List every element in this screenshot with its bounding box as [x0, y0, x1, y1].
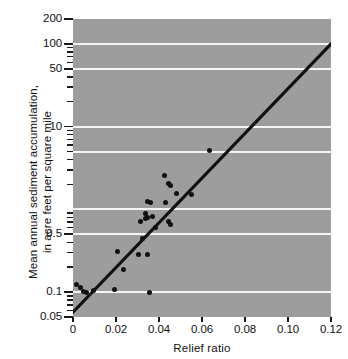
- x-axis-tick: [158, 317, 160, 322]
- x-axis-tick-label: 0.10: [277, 324, 299, 336]
- y-axis-tick-major: [64, 43, 73, 45]
- y-axis-tick-label: 50: [49, 63, 62, 75]
- y-axis-tick-major: [64, 18, 73, 20]
- data-point: [136, 252, 141, 257]
- data-point: [168, 222, 173, 227]
- x-axis-tick: [244, 317, 246, 322]
- x-axis-tick: [72, 317, 74, 322]
- y-axis-tick-major: [64, 233, 73, 235]
- x-axis-title: Relief ratio: [173, 342, 230, 354]
- y-axis-tick-label: 0.1: [46, 286, 62, 298]
- y-axis-tick-label: 200: [43, 13, 62, 25]
- x-axis-tick-label: 0.02: [105, 324, 127, 336]
- x-axis-tick: [287, 317, 289, 322]
- data-point: [162, 173, 167, 178]
- x-axis-tick-label: 0.08: [234, 324, 256, 336]
- data-point: [140, 236, 145, 241]
- y-axis-tick-major: [64, 291, 73, 293]
- x-axis-tick: [115, 317, 117, 322]
- y-axis-tick-label: 0.5: [46, 229, 62, 241]
- x-axis-tick-label: 0: [70, 324, 76, 336]
- x-axis-tick: [330, 317, 332, 322]
- x-axis-tick: [201, 317, 203, 322]
- data-point: [115, 249, 120, 254]
- y-axis: 20010050100.50.10.05: [0, 0, 73, 359]
- data-point: [145, 252, 150, 257]
- x-axis-tick-label: 0.12: [320, 324, 342, 336]
- y-axis-tick-label: 100: [43, 38, 62, 50]
- y-axis-tick-label: 10: [49, 121, 62, 133]
- trend-line: [73, 19, 331, 317]
- y-axis-tick-major: [64, 126, 73, 128]
- x-axis-tick-label: 0.04: [148, 324, 170, 336]
- x-axis-tick-label: 0.06: [191, 324, 213, 336]
- plot-area: [73, 19, 331, 317]
- y-axis-tick-major: [64, 68, 73, 70]
- scatter-chart-figure: Mean annual sediment accumulation, in ac…: [0, 0, 348, 359]
- x-axis: Relief ratio 00.020.040.060.080.100.12: [0, 317, 348, 359]
- data-point: [168, 183, 173, 188]
